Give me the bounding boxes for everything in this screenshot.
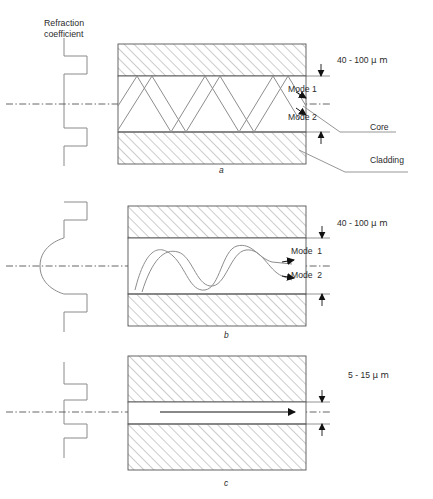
cladding-callout-label: Cladding: [370, 155, 404, 165]
mode-1-label-a: Mode 1: [288, 84, 317, 94]
caption-b: b: [224, 330, 229, 340]
panel-c: [6, 356, 330, 470]
panel-b: [6, 202, 330, 332]
dimension-unit-a: μ m: [371, 55, 388, 65]
dimension-value-c: 5 - 15: [348, 370, 370, 380]
dimension-label-c: 5 - 15 μ m: [348, 370, 389, 380]
cladding-bottom-b: [128, 294, 306, 326]
profile-curve-a: [64, 38, 87, 166]
core-b: [128, 238, 306, 294]
mode-1-label-b: Mode 1: [291, 246, 322, 256]
cladding-bottom-a: [118, 132, 306, 164]
mode-2-label-b: Mode 2: [291, 270, 322, 280]
core-callout-label: Core: [370, 122, 389, 132]
caption-a: a: [219, 165, 224, 175]
figure-root: Refraction coefficient 40 - 100 μ m Mode…: [0, 0, 433, 499]
axis-title-line1: Refraction: [44, 18, 84, 29]
cladding-top-a: [118, 44, 306, 76]
core-c: [128, 402, 306, 424]
dimension-label-b: 40 - 100 μ m: [337, 218, 388, 228]
cladding-top-c: [128, 356, 306, 402]
dimension-value-b: 40 - 100: [337, 218, 369, 228]
dimension-unit-b: μ m: [371, 218, 388, 228]
profile-curve-c: [64, 362, 87, 458]
axis-title-line2: coefficient: [44, 29, 83, 40]
mode-2-label-a: Mode 2: [288, 112, 317, 122]
profile-curve-b: [40, 202, 87, 332]
dimension-label-a: 40 - 100 μ m: [337, 55, 388, 65]
dimension-unit-c: μ m: [372, 370, 389, 380]
cladding-top-b: [128, 206, 306, 238]
dimension-value-a: 40 - 100: [337, 55, 369, 65]
cladding-bottom-c: [128, 424, 306, 470]
caption-c: c: [224, 478, 228, 488]
fiber-mode-diagram: [0, 0, 433, 499]
